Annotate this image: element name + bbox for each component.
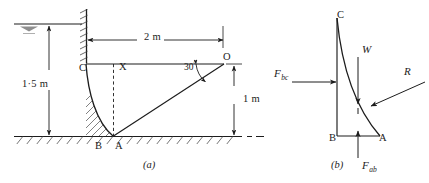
dimension-label-height: 1 m: [243, 94, 260, 105]
point-label-C-a: C: [79, 63, 86, 74]
vertical-wall: [78, 8, 90, 68]
water-surface-line: [14, 24, 82, 34]
angle-label-30deg: 30°: [184, 61, 196, 73]
force-symbol-Fab: F: [362, 159, 369, 171]
line-A-to-O: [114, 64, 225, 136]
panel-caption-a: (a): [143, 160, 155, 171]
angle-value: 30: [184, 62, 194, 72]
dimension-1m: [226, 64, 242, 135]
force-label-W: W: [362, 44, 371, 55]
force-label-Fbc: Fbc: [274, 68, 288, 79]
force-label-Fab: Fab: [362, 160, 376, 171]
figure-drawing: [0, 0, 429, 183]
point-label-B-a: B: [95, 141, 102, 152]
force-symbol-Fbc: F: [274, 67, 281, 79]
point-label-X: X: [119, 62, 127, 73]
degree-symbol: °: [194, 60, 197, 68]
point-label-O: O: [223, 52, 231, 63]
figure-container: C X O B A 1·5 m 2 m 1 m 30° (a) C B A Fb…: [0, 0, 429, 183]
point-label-A-a: A: [115, 141, 123, 152]
point-label-A-b: A: [379, 133, 387, 144]
dam-curved-face: [78, 64, 124, 139]
dimension-label-depth: 1·5 m: [22, 79, 48, 90]
free-body-diagram: [292, 18, 425, 158]
dimension-label-span: 2 m: [144, 32, 161, 43]
force-subscript-bc: bc: [281, 73, 288, 82]
point-label-B-b: B: [329, 133, 336, 144]
water-surface-triangle: [20, 27, 38, 32]
panel-caption-b: (b): [331, 160, 343, 171]
force-label-R: R: [404, 66, 411, 77]
ground-line: [14, 135, 264, 145]
point-label-C-b: C: [337, 10, 344, 21]
force-subscript-ab: ab: [369, 165, 377, 174]
force-arrow-R: [371, 82, 425, 106]
